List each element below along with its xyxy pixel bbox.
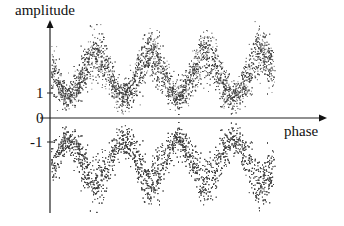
tick-label-minus-1: -1 [30, 135, 43, 150]
scatter-plot [0, 0, 344, 226]
x-axis-arrow-icon [319, 115, 327, 122]
scatter-points [51, 21, 275, 213]
y-axis-label: amplitude [15, 3, 75, 18]
x-axis-label: phase [284, 124, 318, 139]
y-axis-arrow-icon [47, 20, 54, 28]
tick-label-1: 1 [36, 86, 44, 101]
tick-label-0: 0 [36, 111, 44, 126]
